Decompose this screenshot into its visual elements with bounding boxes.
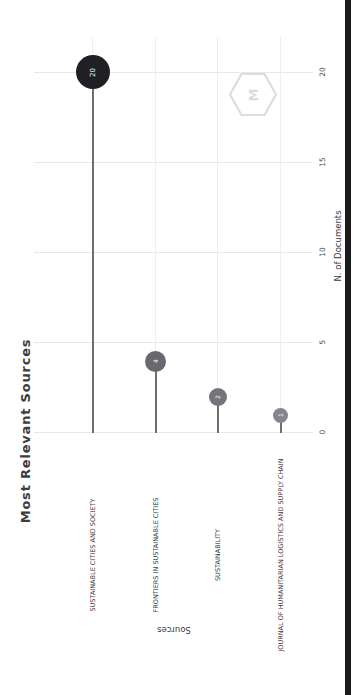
value-tick-20: 20 — [318, 67, 327, 77]
hexagon-logo-watermark: M — [227, 71, 279, 118]
value-tick-5: 5 — [318, 340, 327, 345]
category-label-4: JOURNAL OF HUMANITARIAN LOGISTICS AND SU… — [277, 458, 285, 651]
gridline-value-5 — [34, 342, 313, 343]
gridline-category-4 — [280, 37, 281, 433]
lollipop-dot-2: 4 — [145, 351, 166, 372]
dot-value-label: 4 — [152, 359, 158, 363]
category-axis-title: Sources — [157, 625, 191, 635]
value-tick-0: 0 — [318, 430, 327, 435]
dot-value-label: 2 — [215, 395, 221, 399]
lollipop-dot-1: 20 — [76, 55, 110, 89]
category-label-2: FRONTIERS IN SUSTAINABLE CITIES — [152, 498, 160, 613]
lollipop-dot-4: 1 — [273, 408, 288, 423]
gridline-value-0 — [34, 432, 313, 433]
gridline-category-3 — [217, 37, 218, 433]
lollipop-stem-1 — [92, 72, 94, 433]
chart-title: Most Relevant Sources — [18, 339, 33, 524]
dot-value-label: 1 — [277, 413, 283, 417]
gridline-value-10 — [34, 252, 313, 253]
gridline-value-15 — [34, 162, 313, 163]
category-label-1: SUSTAINABLE CITIES AND SOCIETY — [89, 498, 97, 611]
window-edge-bar — [345, 0, 351, 695]
watermark-glyph: M — [246, 89, 261, 102]
category-label-3: SUSTAINABILITY — [214, 529, 222, 581]
lollipop-stem-2 — [155, 361, 157, 433]
value-axis-title: N. of Documents — [333, 210, 343, 281]
chart-screenshot: Most Relevant Sources M 20 4 2 1 20 15 1… — [0, 0, 354, 695]
value-tick-10: 10 — [318, 247, 327, 257]
dot-value-label: 20 — [89, 68, 96, 77]
value-tick-15: 15 — [318, 157, 327, 167]
lollipop-dot-3: 2 — [209, 388, 227, 406]
